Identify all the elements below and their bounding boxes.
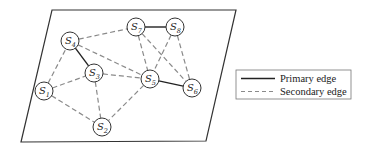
secondary-edge-s1-s3 <box>52 76 85 88</box>
network-diagram: S1S2S3S4S5S6S7S8 Primary edge Secondary … <box>0 0 368 149</box>
node-s3: S3 <box>85 64 103 82</box>
node-s5: S5 <box>141 70 159 88</box>
legend-secondary-label: Secondary edge <box>280 86 347 97</box>
node-s4: S4 <box>61 32 79 50</box>
primary-edge-s5-s6 <box>159 81 183 86</box>
node-s1: S1 <box>35 82 53 100</box>
node-layer: S1S2S3S4S5S6S7S8 <box>35 18 201 136</box>
secondary-edge-s4-s7 <box>79 29 127 39</box>
secondary-edge-s3-s2 <box>95 82 100 118</box>
legend: Primary edge Secondary edge <box>236 70 351 99</box>
secondary-edge-s3-s5 <box>103 74 141 78</box>
primary-edge-s4-s3 <box>75 48 88 66</box>
node-s8: S8 <box>166 18 184 36</box>
node-s7: S7 <box>127 18 145 36</box>
secondary-edge-s1-s4 <box>48 49 66 83</box>
secondary-edge-s7-s5 <box>138 36 147 71</box>
node-s2: S2 <box>93 118 111 136</box>
legend-primary-label: Primary edge <box>280 73 337 84</box>
secondary-edge-s5-s2 <box>108 85 143 120</box>
node-s6: S6 <box>183 79 201 97</box>
secondary-edge-s1-s2 <box>52 96 95 123</box>
secondary-edge-s8-s6 <box>177 36 189 80</box>
secondary-edge-s8-s5 <box>154 35 171 71</box>
